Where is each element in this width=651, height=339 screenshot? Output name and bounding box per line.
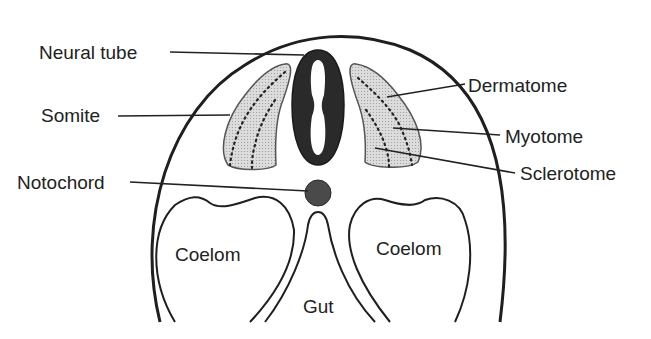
label-somite: Somite xyxy=(41,105,100,126)
embryo-cross-section-diagram: Neural tube Somite Notochord Dermatome M… xyxy=(0,0,651,339)
label-myotome: Myotome xyxy=(505,126,583,147)
coelom-right xyxy=(349,198,470,322)
somite-right xyxy=(350,64,421,168)
label-gut: Gut xyxy=(303,296,334,317)
label-neural-tube: Neural tube xyxy=(39,42,137,63)
label-notochord: Notochord xyxy=(17,172,105,193)
somite-left xyxy=(223,64,290,170)
notochord xyxy=(305,180,331,206)
label-sclerotome: Sclerotome xyxy=(520,163,616,184)
label-coelom-right: Coelom xyxy=(376,238,441,259)
neural-tube xyxy=(292,50,344,165)
label-coelom-left: Coelom xyxy=(175,244,240,265)
label-dermatome: Dermatome xyxy=(468,75,567,96)
